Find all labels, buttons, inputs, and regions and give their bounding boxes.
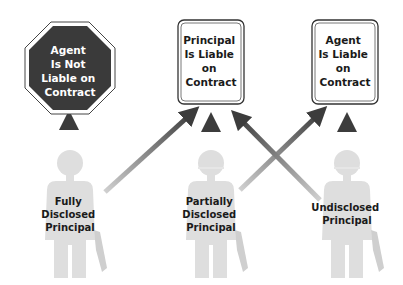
agency-liability-diagram: Agent Is Not Liable on Contract Principa… bbox=[0, 0, 403, 285]
outcome-agent-not-liable: Agent Is Not Liable on Contract bbox=[25, 22, 115, 114]
principal-partially-disclosed: Partially Disclosed Principal bbox=[182, 150, 248, 278]
arrow-fully-to-principal-liable bbox=[105, 113, 192, 192]
arrow-undisclosed-to-principal-liable bbox=[238, 117, 320, 200]
arrow-partially-to-agent-liable bbox=[240, 113, 320, 190]
principal-label: Partially Disclosed Principal bbox=[182, 196, 239, 233]
outcome-principal-liable: Principal Is Liable on Contract bbox=[178, 20, 244, 104]
outcome-agent-liable: Agent Is Liable on Contract bbox=[312, 20, 378, 104]
person-figure-icon bbox=[322, 150, 384, 278]
principal-fully-disclosed: Fully Disclosed Principal bbox=[41, 150, 107, 278]
principal-undisclosed: Undisclosed Principal bbox=[311, 150, 384, 278]
